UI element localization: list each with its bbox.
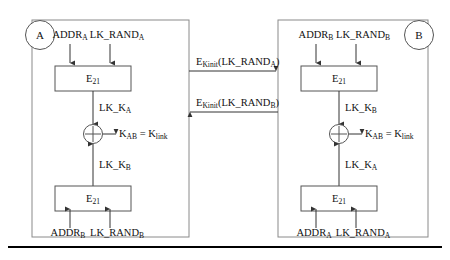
panel-b-bottom-output-label: LK_KA [345,160,377,172]
device-node-b-label: B [415,30,422,41]
panel-a-bottom-input-2-label: LK_RANDB [90,228,144,240]
panel-a-top-input-2-label: LK_RANDA [90,30,144,42]
device-node-a-label: A [36,30,44,41]
panel-a-xor-output-label: KAB = Klink [119,129,168,141]
panel-b-bottom-input-1-label: ADDRA [296,228,331,240]
panel-b-top-input-2-label: LK_RANDB [336,30,390,42]
panel-a-bottom-input-1-label: ADDRB [51,228,86,240]
diagram-canvas: A ADDRA LK_RANDA E21 LK_KA KAB = Klink L… [0,0,450,260]
panel-b-top-input-1-label: ADDRB [299,30,334,42]
panel-b-xor-output-label: KAB = Klink [365,129,414,141]
panel-a-top-output-label: LK_KA [99,103,131,115]
panel-b-bottom-e21-label: E21 [332,194,346,206]
panel-b-top-e21-label: E21 [332,74,346,86]
panel-a-top-e21-label: E21 [86,74,100,86]
panel-b-top-output-label: LK_KB [345,103,377,115]
panel-a-bottom-e21-label: E21 [86,194,100,206]
panel-b-bottom-input-2-label: LK_RANDA [336,228,390,240]
message-a-to-b-label: EKinit(LK_RANDA) [196,57,279,69]
panel-a-bottom-output-label: LK_KB [99,160,131,172]
message-b-to-a-label: EKinit(LK_RANDB) [196,98,279,110]
panel-a-top-input-1-label: ADDRA [52,30,87,42]
